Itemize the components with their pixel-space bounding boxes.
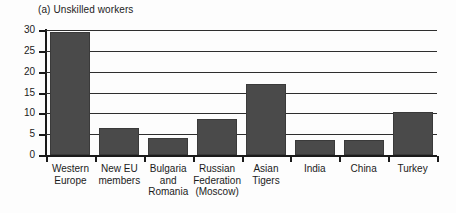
x-tick-0 (95, 156, 97, 162)
plot-area (46, 30, 437, 155)
y-tick-label-25: 25 (5, 45, 35, 56)
y-tick-label-0: 0 (5, 149, 35, 160)
bar (148, 138, 188, 155)
x-axis-label: Turkey (382, 163, 443, 175)
bar (393, 112, 433, 155)
bar (246, 84, 286, 155)
y-tick-20 (39, 72, 46, 74)
y-tick-5 (39, 134, 46, 136)
y-tick-0 (39, 155, 46, 157)
y-tick-label-15: 15 (5, 87, 35, 98)
bar (50, 32, 90, 155)
x-tick-4 (290, 156, 292, 162)
y-tick-label-20: 20 (5, 66, 35, 77)
bar (99, 128, 139, 155)
chart-title: (a) Unskilled workers (38, 4, 133, 15)
x-tick-5 (339, 156, 341, 162)
x-tick-6 (388, 156, 390, 162)
chart-figure: (a) Unskilled workers 051015202530 Weste… (0, 0, 456, 213)
y-tick-25 (39, 51, 46, 53)
y-tick-30 (39, 30, 46, 32)
y-tick-label-10: 10 (5, 107, 35, 118)
x-tick-2 (193, 156, 195, 162)
x-tick-1 (144, 156, 146, 162)
x-tick-origin (46, 156, 48, 162)
bar (344, 140, 384, 155)
x-tick-7 (437, 156, 439, 162)
bar (197, 119, 237, 155)
y-tick-10 (39, 113, 46, 115)
bar (295, 140, 335, 155)
y-tick-label-5: 5 (5, 128, 35, 139)
y-tick-15 (39, 93, 46, 95)
y-tick-label-30: 30 (5, 24, 35, 35)
x-tick-3 (242, 156, 244, 162)
